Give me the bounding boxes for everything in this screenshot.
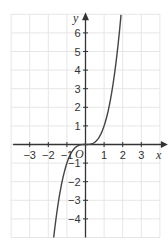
y-tick-label: 2 bbox=[74, 101, 80, 113]
x-tick-label: 1 bbox=[101, 149, 107, 161]
y-tick-label: 5 bbox=[74, 46, 80, 58]
origin-label: O bbox=[75, 147, 84, 161]
y-tick-label: −2 bbox=[68, 176, 81, 188]
y-tick-label: 1 bbox=[74, 120, 80, 132]
y-tick-label: −4 bbox=[68, 213, 81, 225]
x-axis-label: x bbox=[155, 148, 162, 162]
axes bbox=[13, 12, 168, 237]
x-tick-label: 2 bbox=[120, 149, 126, 161]
x-tick-label: −3 bbox=[23, 149, 36, 161]
y-tick-label: 3 bbox=[74, 83, 80, 95]
x-tick-label: 3 bbox=[138, 149, 144, 161]
y-tick-label: 4 bbox=[74, 64, 80, 76]
x-tick-label: −2 bbox=[42, 149, 55, 161]
y-tick-label: −3 bbox=[68, 194, 81, 206]
y-tick-label: 6 bbox=[74, 27, 80, 39]
y-axis-label: y bbox=[72, 11, 79, 25]
cubic-graph: −3−2−1123−4−3−2−1123456 x y O bbox=[0, 0, 168, 243]
